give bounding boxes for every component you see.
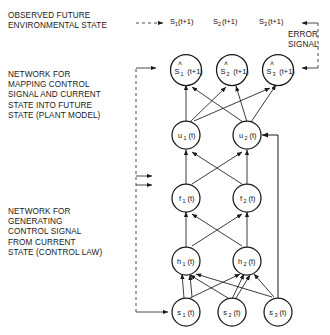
node-f-1[interactable]: f 1 (t) <box>172 184 200 212</box>
node-prediction-3-base: S <box>267 67 272 76</box>
dashed-bus-arrow-to-f-layer <box>136 176 152 185</box>
observed-2-arg: (t+1) <box>222 17 237 26</box>
feedback-s3-to-u2 <box>262 135 278 298</box>
node-f-1-sub: 1 <box>183 198 186 204</box>
node-u-2-sub: 2 <box>245 135 248 141</box>
edges-f-to-u <box>186 150 247 185</box>
node-s-1[interactable]: s 1 (t) <box>172 298 200 326</box>
node-h-1-sub: 1 <box>183 261 186 267</box>
node-prediction-1-base: S <box>175 67 180 76</box>
observed-state-label-3: S 3 (t+1) <box>259 17 283 27</box>
observed-3-sub: 3 <box>264 21 267 27</box>
node-s-2-base: s <box>223 308 227 317</box>
edges-s-to-h <box>182 274 274 299</box>
node-prediction-3[interactable]: ˄ S 3 (t+1) <box>263 55 295 86</box>
node-h-2[interactable]: h 2 (t) <box>233 247 261 275</box>
node-s-1-sub: 1 <box>183 312 186 318</box>
node-h-2-base: h <box>238 257 242 266</box>
node-f-2[interactable]: f 2 (t) <box>233 184 261 212</box>
observed-2-sub: 2 <box>218 21 221 27</box>
node-h-2-sub: 2 <box>244 261 247 267</box>
node-prediction-1-arg: (t+1) <box>187 67 202 76</box>
node-prediction-1-sub: 1 <box>181 71 184 77</box>
node-prediction-1-hat: ˄ <box>178 60 182 67</box>
observed-1-arg: (t+1) <box>178 17 193 26</box>
node-prediction-1[interactable]: ˄ S 1 (t+1) <box>171 55 203 86</box>
node-prediction-3-hat: ˄ <box>270 60 274 67</box>
observed-future-state-label: OBSERVED FUTURE ENVIRONMENTAL STATE <box>8 11 107 31</box>
control-law-label: NETWORK FOR GENERATING CONTROL SIGNAL FR… <box>8 207 102 258</box>
node-h-1[interactable]: h 1 (t) <box>172 247 200 275</box>
edges-u-to-prediction <box>186 85 276 122</box>
node-h-2-arg: (t) <box>249 257 256 266</box>
node-s-3-base: s <box>269 308 273 317</box>
node-s-3-sub: 3 <box>275 312 278 318</box>
node-prediction-2-hat: ˄ <box>224 60 228 67</box>
node-f-2-sub: 2 <box>244 198 247 204</box>
plant-model-label: NETWORK FOR MAPPING CONTROL SIGNAL AND C… <box>8 70 101 121</box>
node-prediction-2-base: S <box>221 67 226 76</box>
node-u-2-arg: (t) <box>250 131 257 140</box>
network-diagram: ˄ S 1 (t+1) ˄ S 2 (t+1) ˄ S 3 (t+1) u 1 … <box>0 0 330 335</box>
node-prediction-2[interactable]: ˄ S 2 (t+1) <box>217 55 249 86</box>
observed-3-arg: (t+1) <box>268 17 283 26</box>
node-u-1[interactable]: u 1 (t) <box>172 121 200 149</box>
node-h-1-arg: (t) <box>188 257 195 266</box>
node-f-2-arg: (t) <box>249 194 256 203</box>
node-u-1-sub: 1 <box>184 135 187 141</box>
node-prediction-2-sub: 2 <box>227 71 230 77</box>
node-s-2-arg: (t) <box>234 308 241 317</box>
node-s-3[interactable]: s 3 (t) <box>264 298 292 326</box>
error-signal-label: ERROR SIGNAL <box>288 30 319 50</box>
node-f-1-arg: (t) <box>188 194 195 203</box>
node-u-1-base: u <box>178 131 182 140</box>
node-s-1-base: s <box>177 308 181 317</box>
node-prediction-2-arg: (t+1) <box>233 67 248 76</box>
node-u-1-arg: (t) <box>189 131 196 140</box>
node-s-3-arg: (t) <box>280 308 287 317</box>
node-prediction-3-arg: (t+1) <box>279 67 294 76</box>
node-u-2[interactable]: u 2 (t) <box>233 121 261 149</box>
node-s-2-sub: 2 <box>229 312 232 318</box>
observed-state-label-1: S 1 (t+1) <box>170 17 193 27</box>
node-h-1-base: h <box>177 257 181 266</box>
node-prediction-3-sub: 3 <box>273 71 276 77</box>
node-u-2-base: u <box>239 131 243 140</box>
node-s-2[interactable]: s 2 (t) <box>218 298 246 326</box>
edges-h-to-f <box>186 212 247 247</box>
node-s-1-arg: (t) <box>188 308 195 317</box>
observed-state-label-2: S 2 (t+1) <box>213 17 237 27</box>
